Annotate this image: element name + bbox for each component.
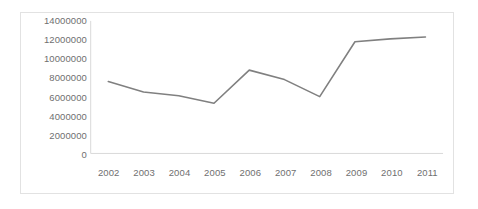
x-axis-tick-label: 2008 [310, 167, 332, 178]
x-axis-tick-label: 2009 [346, 167, 368, 178]
x-axis-tick-label: 2010 [381, 167, 403, 178]
x-axis-tick-label: 2004 [169, 167, 191, 178]
chart-figure: 1400000012000000100000008000000600000040… [20, 12, 454, 194]
x-axis-tick-label: 2011 [417, 167, 438, 178]
x-axis-tick-label: 2007 [275, 167, 297, 178]
x-axis-tick-label: 2005 [204, 167, 226, 178]
plot-area: 1400000012000000100000008000000600000040… [21, 13, 453, 193]
data-series-line [108, 37, 425, 103]
x-axis-tick-label: 2006 [240, 167, 262, 178]
chart-plot-svg [21, 13, 453, 193]
x-axis-tick-label: 2002 [98, 167, 120, 178]
x-axis-tick-label: 2003 [133, 167, 155, 178]
